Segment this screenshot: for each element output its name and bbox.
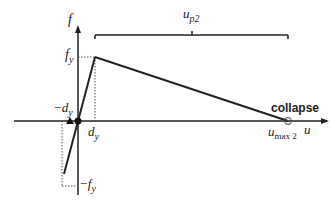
force-displacement-diagram: f fy −dy dy −fy up2 collapse umax 2 u <box>0 0 332 208</box>
f-axis-arrow-icon <box>75 25 81 33</box>
collapse-label: collapse <box>271 101 319 115</box>
neg-dy-label: −dy <box>53 100 73 118</box>
origin-dot-icon <box>75 118 82 125</box>
curve <box>64 57 288 174</box>
up2-label: up2 <box>183 6 200 24</box>
dy-label: dy <box>88 124 100 142</box>
umax2-label: umax 2 <box>268 124 297 141</box>
fy-label: fy <box>65 47 74 65</box>
u-axis-label: u <box>304 122 311 137</box>
softening-branch <box>95 57 288 121</box>
u-axis-arrow-icon <box>321 118 329 124</box>
neg-fy-label: −fy <box>79 176 96 194</box>
f-axis-label: f <box>68 12 74 27</box>
up2-bracket <box>95 31 288 39</box>
